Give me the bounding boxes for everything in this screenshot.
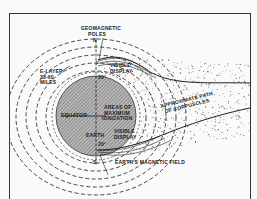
visible-display-bottom-label: VISIBLE DISPLAY — [114, 129, 137, 140]
latitude-north-label: 20° — [98, 75, 106, 81]
equator-label: EQUATOR — [61, 113, 87, 119]
poles-pointer — [99, 38, 103, 60]
e-layer-label: E-LAYER 38-60 MILES — [40, 69, 63, 86]
visible-display-top-label: VISIBLE DISPLAY — [110, 63, 133, 74]
areas-of-maximum-ionization-label: AREAS OF MAXIMUM IONIZATION — [102, 105, 133, 122]
field-pointer — [100, 155, 108, 175]
geomagnetic-poles-label: GEOMAGNETIC POLES — [81, 26, 121, 37]
earth-label: EARTH — [86, 133, 104, 139]
aurora-diagram: /* placeholder */ — [0, 0, 257, 199]
south-label: S — [93, 160, 97, 166]
north-label: N — [93, 38, 97, 44]
magnetic-field-label: EARTH'S MAGNETIC FIELD — [115, 160, 185, 166]
latitude-south-label: 20° — [98, 142, 106, 148]
